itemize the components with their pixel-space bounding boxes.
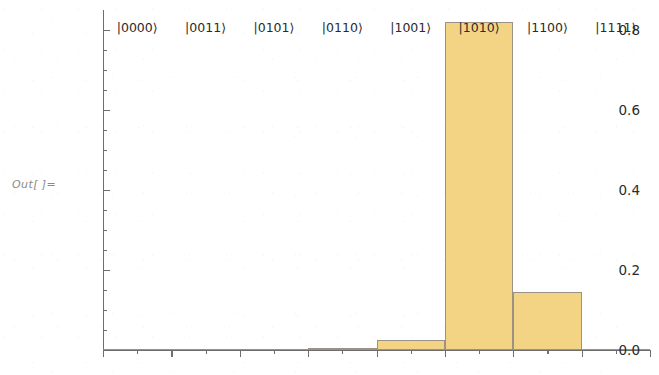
x-tick-label: |1001⟩ (390, 20, 431, 35)
x-tick-minor (616, 350, 617, 354)
x-tick-major (582, 350, 583, 357)
notebook-output-cell: Out[ ]= 0.00.20.40.60.8|0000⟩|0011⟩|0101… (0, 0, 659, 375)
x-tick-label: |0011⟩ (185, 20, 226, 35)
x-tick-minor (547, 350, 548, 354)
x-tick-minor (342, 350, 343, 354)
x-tick-major (308, 350, 309, 357)
output-cell-label: Out[ ]= (12, 178, 56, 191)
x-tick-minor (274, 350, 275, 354)
x-tick-label: |0000⟩ (117, 20, 158, 35)
x-tick-label: |0110⟩ (322, 20, 363, 35)
x-tick-major (103, 350, 104, 357)
y-tick-label: 0.0 (619, 342, 640, 358)
x-tick-major (650, 350, 651, 357)
y-tick-label: 0.2 (619, 262, 640, 278)
x-tick-minor (206, 350, 207, 354)
x-tick-major (171, 350, 172, 357)
x-tick-minor (411, 350, 412, 354)
x-tick-label: |0101⟩ (253, 20, 294, 35)
x-tick-major (513, 350, 514, 357)
axis-labels-layer: 0.00.20.40.60.8|0000⟩|0011⟩|0101⟩|0110⟩|… (103, 10, 650, 350)
x-tick-minor (479, 350, 480, 354)
x-tick-major (377, 350, 378, 357)
y-tick-label: 0.4 (619, 182, 640, 198)
x-tick-major (240, 350, 241, 357)
bar-chart-plot: 0.00.20.40.60.8|0000⟩|0011⟩|0101⟩|0110⟩|… (103, 10, 650, 350)
x-tick-major (445, 350, 446, 357)
y-tick-label: 0.6 (619, 102, 640, 118)
x-tick-label: |1010⟩ (459, 20, 500, 35)
x-tick-label: |1100⟩ (527, 20, 568, 35)
x-tick-label: |1111⟩ (595, 20, 636, 35)
x-tick-minor (137, 350, 138, 354)
